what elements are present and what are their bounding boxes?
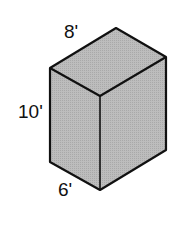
label-height: 10' [18,102,43,121]
label-bottom-edge: 6' [58,180,72,199]
label-top-edge: 8' [64,22,78,41]
